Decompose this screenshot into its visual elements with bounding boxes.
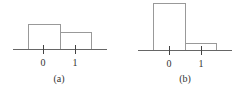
panel-b: [138, 4, 232, 56]
tick-label-a-1: 1: [73, 58, 78, 68]
panel-a: [13, 25, 107, 55]
diagram-canvas: [0, 0, 240, 86]
caption-a: (a): [53, 74, 64, 84]
bar-a-0: [29, 25, 61, 50]
tick-label-b-0: 0: [167, 59, 172, 69]
tick-label-a-0: 0: [41, 58, 46, 68]
bar-b-0: [154, 4, 186, 51]
tick-label-b-1: 1: [199, 59, 204, 69]
caption-b: (b): [179, 74, 191, 84]
